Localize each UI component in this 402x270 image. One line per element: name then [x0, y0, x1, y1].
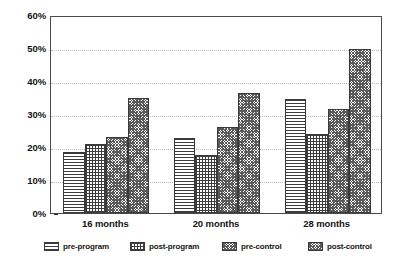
legend-swatch-icon	[308, 242, 323, 251]
x-tick-label: 20 months	[161, 218, 272, 230]
bar	[238, 93, 260, 213]
bar	[306, 134, 328, 213]
bar	[174, 138, 196, 213]
legend-label: post-program	[149, 242, 199, 251]
bars-layer	[51, 17, 381, 213]
bar	[217, 127, 239, 213]
bar	[285, 99, 307, 213]
plot-area	[50, 16, 382, 214]
bar-group	[272, 17, 383, 213]
legend-item[interactable]: post-program	[130, 240, 199, 252]
y-axis: 60%50%40%30%20%10%0%	[6, 10, 46, 220]
x-axis: 16 months20 months28 months	[50, 218, 382, 234]
y-tick-label: 10%	[6, 176, 46, 186]
legend-swatch-icon	[44, 242, 59, 251]
legend-item[interactable]: pre-program	[44, 240, 109, 252]
y-tick-label: 20%	[6, 143, 46, 153]
bar-chart-figure: 60%50%40%30%20%10%0% 16 months20 months2…	[0, 0, 402, 270]
bar	[349, 49, 371, 213]
bar	[128, 98, 150, 213]
bar	[195, 155, 217, 213]
bar	[328, 109, 350, 213]
bar	[63, 152, 85, 213]
legend-label: pre-program	[63, 242, 109, 251]
y-tick-label: 60%	[6, 11, 46, 21]
bar	[85, 144, 107, 213]
y-tick-mark	[54, 214, 58, 215]
bar-group	[51, 17, 162, 213]
y-tick-label: 0%	[6, 209, 46, 219]
chart-legend: pre-programpost-programpre-controlpost-c…	[44, 240, 394, 254]
bar	[106, 137, 128, 213]
y-tick-label: 50%	[6, 44, 46, 54]
legend-item[interactable]: pre-control	[222, 240, 282, 252]
y-tick-label: 40%	[6, 77, 46, 87]
legend-swatch-icon	[130, 242, 145, 251]
legend-swatch-icon	[222, 242, 237, 251]
x-tick-label: 16 months	[50, 218, 161, 230]
legend-item[interactable]: post-control	[308, 240, 372, 252]
x-tick-label: 28 months	[271, 218, 382, 230]
legend-label: post-control	[327, 242, 372, 251]
bar-group	[162, 17, 273, 213]
y-tick-label: 30%	[6, 110, 46, 120]
legend-label: pre-control	[241, 242, 282, 251]
